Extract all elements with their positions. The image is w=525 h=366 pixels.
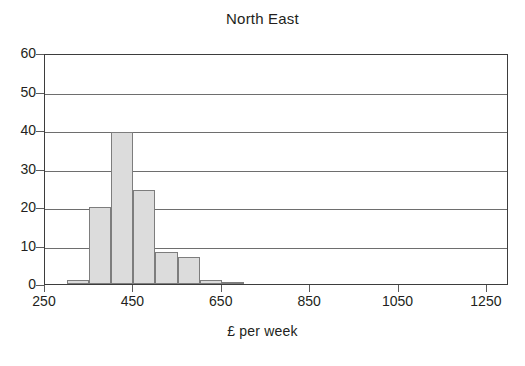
- y-axis-tick-mark: [36, 170, 44, 171]
- histogram-bar: [178, 257, 200, 284]
- y-axis-tick-label: 50: [2, 85, 36, 99]
- histogram-bar: [89, 207, 111, 284]
- y-axis-tick-mark: [36, 131, 44, 132]
- y-axis-tick-label: 10: [2, 239, 36, 253]
- y-axis-tick-mark: [36, 93, 44, 94]
- y-axis-tick-mark: [36, 247, 44, 248]
- x-axis-tick-mark: [44, 285, 45, 292]
- x-axis-tick-mark: [309, 285, 310, 292]
- chart-title: North East: [0, 10, 525, 27]
- bars-layer: [45, 55, 507, 284]
- y-axis-tick-mark: [36, 208, 44, 209]
- x-axis-tick-mark: [221, 285, 222, 292]
- x-axis-tick-label: 250: [32, 294, 55, 309]
- histogram-bar: [200, 280, 222, 284]
- histogram-bar: [133, 190, 155, 284]
- x-axis-tick-mark: [398, 285, 399, 292]
- histogram-bar: [67, 280, 89, 284]
- y-axis-tick-label: 0: [2, 277, 36, 291]
- x-axis-tick-label: 1050: [382, 294, 413, 309]
- y-axis-tick-mark: [36, 285, 44, 286]
- y-axis-tick-label: 30: [2, 162, 36, 176]
- y-axis-tick-label: 20: [2, 200, 36, 214]
- y-axis-tick-label: 60: [2, 46, 36, 60]
- x-axis-tick-mark: [486, 285, 487, 292]
- x-axis-tick-label: 650: [209, 294, 232, 309]
- x-axis-tick-label: 1250: [470, 294, 501, 309]
- y-axis-tick-mark: [36, 54, 44, 55]
- histogram-bar: [222, 282, 244, 284]
- x-axis-tick-label: 450: [121, 294, 144, 309]
- histogram-bar: [155, 252, 177, 284]
- x-axis-tick-label: 850: [297, 294, 320, 309]
- plot-area: [44, 54, 508, 285]
- histogram-bar: [111, 132, 133, 284]
- y-axis-tick-label: 40: [2, 123, 36, 137]
- chart-container: North East 0102030405060 250450650850105…: [0, 0, 525, 366]
- x-axis-title: £ per week: [0, 323, 525, 339]
- x-axis-tick-mark: [132, 285, 133, 292]
